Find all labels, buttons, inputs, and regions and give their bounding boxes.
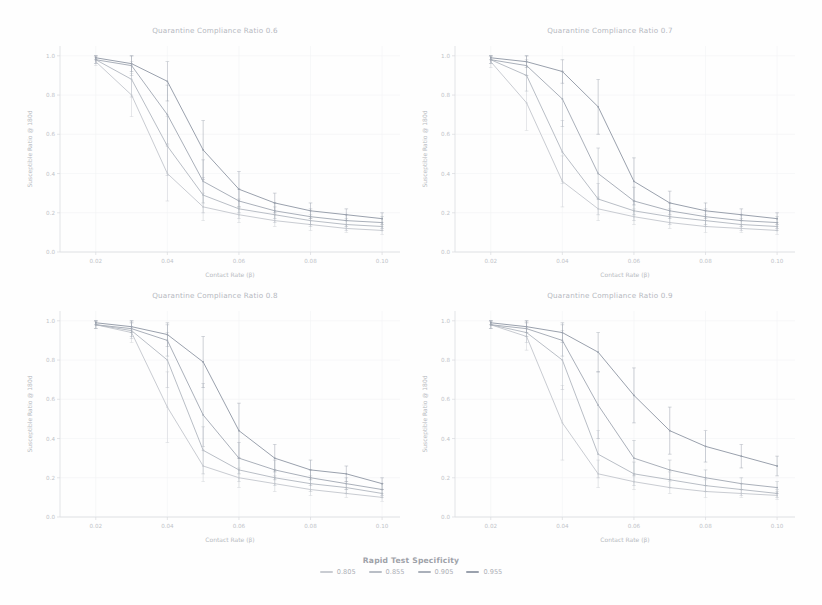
data-point [274,457,276,459]
data-point [238,188,240,190]
x-tick-label: 0.08 [304,523,317,529]
data-point [669,202,671,204]
data-point [597,106,599,108]
data-point [131,63,133,65]
y-tick-label: 0.2 [46,475,55,481]
x-tick-label: 0.10 [771,258,784,264]
data-point [166,80,168,82]
data-point [202,180,204,182]
x-tick-label: 0.08 [304,258,317,264]
y-tick-label: 0.6 [441,131,450,137]
data-point [705,210,707,212]
legend-swatch-icon [466,571,479,573]
legend-title: Rapid Test Specificity [0,556,822,565]
x-tick-label: 0.06 [233,258,246,264]
data-point [705,477,707,479]
facet-svg-2: 0.00.20.40.60.81.00.020.040.060.080.10Co… [20,303,410,551]
data-point [776,465,778,467]
data-point [526,326,528,328]
x-tick-label: 0.08 [699,523,712,529]
y-tick-label: 0.6 [46,131,55,137]
x-tick-label: 0.04 [161,258,174,264]
x-tick-label: 0.10 [376,523,389,529]
x-axis-label: Contact Rate (β) [205,536,254,544]
data-point [597,351,599,353]
legend-item-0.905[interactable]: 0.905 [418,568,454,576]
y-tick-label: 0.2 [441,475,450,481]
facet-title-0: Quarantine Compliance Ratio 0.6 [20,26,410,35]
data-point [166,114,168,116]
y-tick-label: 0.6 [441,396,450,402]
x-tick-label: 0.02 [90,258,102,264]
data-point [740,214,742,216]
legend-label: 0.955 [483,568,502,576]
data-point [776,487,778,489]
data-point [274,202,276,204]
facet-panel-2: Quarantine Compliance Ratio 0.8 0.00.20.… [20,291,410,553]
x-tick-label: 0.02 [485,523,497,529]
y-tick-label: 0.0 [441,514,450,520]
x-tick-label: 0.04 [161,523,174,529]
y-axis-label: Susceptible Ratio @ 180d [26,110,34,187]
data-point [633,457,635,459]
data-point [669,430,671,432]
legend-item-0.805[interactable]: 0.805 [320,568,356,576]
x-tick-label: 0.06 [628,523,641,529]
y-tick-label: 0.0 [46,249,55,255]
y-tick-label: 0.8 [441,357,450,363]
data-point [633,394,635,396]
y-tick-label: 0.4 [441,436,450,442]
chart-legend: Rapid Test Specificity 0.8050.8550.9050.… [0,556,822,576]
data-point [597,404,599,406]
data-point [490,322,492,324]
legend-swatch-icon [418,571,431,573]
data-point [561,98,563,100]
plot-area-2: 0.00.20.40.60.81.00.020.040.060.080.10Co… [20,303,410,551]
data-point [166,359,168,361]
y-tick-label: 0.0 [46,514,55,520]
y-tick-label: 0.2 [46,210,55,216]
plot-area-1: 0.00.20.40.60.81.00.020.040.060.080.10Co… [415,38,805,286]
x-axis-label: Contact Rate (β) [600,536,649,544]
data-point [561,71,563,73]
y-tick-label: 0.8 [441,92,450,98]
data-point [776,218,778,220]
data-point [740,483,742,485]
y-tick-label: 1.0 [441,318,450,324]
data-point [202,449,204,451]
data-point [705,445,707,447]
data-point [310,469,312,471]
y-tick-label: 0.4 [441,171,450,177]
x-tick-label: 0.04 [556,258,569,264]
data-point [490,57,492,59]
y-axis-label: Susceptible Ratio @ 180d [26,375,34,452]
data-point [669,469,671,471]
x-tick-label: 0.06 [233,523,246,529]
y-axis-label: Susceptible Ratio @ 180d [421,375,429,452]
data-point [526,61,528,63]
y-tick-label: 1.0 [46,53,55,59]
facet-svg-3: 0.00.20.40.60.81.00.020.040.060.080.10Co… [415,303,805,551]
data-point [740,455,742,457]
legend-item-0.855[interactable]: 0.855 [369,568,405,576]
data-point [561,151,563,153]
y-tick-label: 0.8 [46,357,55,363]
y-tick-label: 0.4 [46,171,55,177]
chart-figure: { "figure": { "panel_titles": [ "Quarant… [0,0,822,605]
y-axis-label: Susceptible Ratio @ 180d [421,110,429,187]
plot-area-0: 0.00.20.40.60.81.00.020.040.060.080.10Co… [20,38,410,286]
x-tick-label: 0.10 [771,523,784,529]
data-point [202,361,204,363]
legend-items: 0.8050.8550.9050.955 [0,568,822,576]
y-tick-label: 1.0 [441,53,450,59]
legend-item-0.955[interactable]: 0.955 [466,568,502,576]
x-axis-label: Contact Rate (β) [600,271,649,279]
data-point [131,326,133,328]
data-point [345,214,347,216]
data-point [633,180,635,182]
x-tick-label: 0.02 [90,523,102,529]
y-tick-label: 0.8 [46,92,55,98]
facet-title-2: Quarantine Compliance Ratio 0.8 [20,291,410,300]
data-point [202,149,204,151]
facet-svg-1: 0.00.20.40.60.81.00.020.040.060.080.10Co… [415,38,805,286]
